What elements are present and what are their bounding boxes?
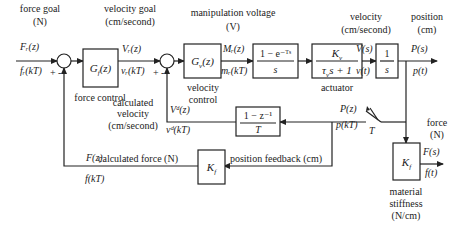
- Fr-z-label: Fᵣ(z): [19, 41, 40, 53]
- F-s-label: F(s): [422, 146, 440, 158]
- force-goal-unit: (N): [33, 16, 47, 28]
- Vr-z-label: Vᵣ(z): [122, 43, 142, 55]
- force-out-label: force: [427, 117, 448, 128]
- velocity-goal-label: velocity goal: [104, 3, 156, 14]
- calculated-velocity-label-1: calculated: [113, 97, 154, 108]
- sum1-minus-sign: -: [58, 67, 61, 78]
- velocity-control-label-2: control: [189, 94, 218, 105]
- manipulation-voltage-label: manipulation voltage: [191, 7, 276, 18]
- fr-kT-label: fᵣ(kT): [20, 65, 43, 77]
- velocity-unit: (cm/second): [341, 24, 390, 36]
- integrator-denominator: s: [385, 64, 389, 75]
- summing-junction-velocity: [160, 54, 174, 68]
- Mr-z-label: Mᵣ(z): [222, 43, 245, 55]
- T-label: T: [369, 125, 376, 136]
- velocity-control-label-1: velocity: [187, 82, 219, 93]
- f-kT-label: f(kT): [85, 173, 105, 185]
- vd-kT-label: vᵈ(kT): [166, 124, 191, 136]
- sum1-plus-sign: +: [50, 67, 56, 78]
- summing-junction-force: [57, 54, 71, 68]
- v-t-label: v(t): [356, 65, 371, 77]
- material-stiffness-label-3: (N/cm): [392, 210, 421, 222]
- sampler-arrow-icon: [366, 106, 370, 111]
- zoh-denominator: s: [274, 64, 278, 75]
- position-unit: (cm): [418, 24, 437, 36]
- zoh-numerator: 1 − e⁻ᵀˢ: [260, 48, 291, 59]
- Vd-z-label: Vᵈ(z): [170, 104, 190, 116]
- F-z-label: F(z): [85, 152, 103, 164]
- sum2-plus-sign: +: [153, 67, 159, 78]
- sum2-minus-sign: -: [161, 67, 164, 78]
- mr-kT-label: mᵣ(kT): [221, 65, 248, 77]
- material-stiffness-label-2: stiffness: [389, 198, 422, 209]
- P-s-label: P(s): [410, 43, 428, 55]
- V-s-label: V(s): [356, 43, 373, 55]
- velocity-label: velocity: [350, 11, 382, 22]
- position-feedback-label: position feedback (cm): [230, 153, 322, 165]
- P-z-label: P(z): [339, 103, 357, 115]
- force-goal-label: force goal: [20, 3, 60, 14]
- calculated-velocity-label-2: velocity: [117, 108, 149, 119]
- position-label: position: [411, 11, 443, 22]
- calculated-velocity-label-3: (cm/second): [108, 120, 157, 132]
- velocity-goal-unit: (cm/second): [105, 16, 154, 28]
- integrator-numerator: 1: [385, 48, 390, 59]
- f-t-label: f(t): [425, 167, 438, 179]
- vr-kT-label: vᵣ(kT): [121, 65, 145, 77]
- force-out-unit: (N): [430, 129, 444, 141]
- actuator-label: actuator: [321, 82, 354, 93]
- diff-numerator: 1 − z⁻¹: [244, 110, 272, 121]
- sampler-switch-cross: [370, 108, 378, 120]
- p-t-label: p(t): [412, 65, 428, 77]
- material-stiffness-label-1: material: [390, 186, 423, 197]
- block-diagram: force goal (N) velocity goal (cm/second)…: [0, 0, 457, 229]
- manipulation-voltage-unit: (V): [226, 21, 240, 33]
- p-kT-label: p(kT): [335, 119, 358, 131]
- calculated-force-label: calculated force (N): [98, 153, 178, 165]
